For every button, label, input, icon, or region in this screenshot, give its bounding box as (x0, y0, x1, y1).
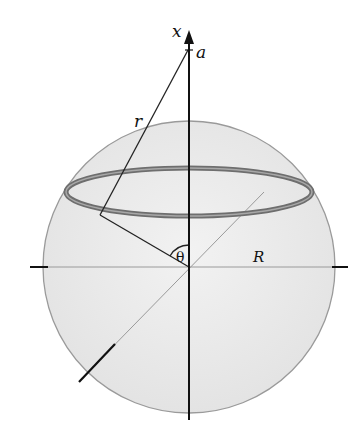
x-axis-label: x (172, 21, 182, 41)
x-axis-arrowhead (184, 30, 194, 44)
distance-label-r: r (134, 111, 143, 131)
point-a-label: a (196, 42, 206, 62)
sphere-ring-diagram: x a r θ R (0, 0, 362, 444)
angle-label: θ (176, 249, 184, 265)
radius-label: R (252, 248, 264, 266)
